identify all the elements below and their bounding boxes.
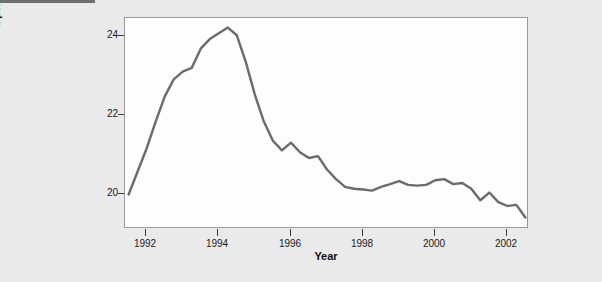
y-axis-label-line-2: a percentage of their total assets <box>0 0 2 44</box>
data-line-svg <box>125 18 529 229</box>
y-tick-label-22: 22 <box>96 109 118 119</box>
x-tick-label-2002: 2002 <box>486 238 526 249</box>
top-rule-decoration <box>0 0 95 3</box>
y-tick-label-20: 20 <box>96 188 118 198</box>
x-tick-mark-2002 <box>506 229 507 236</box>
y-axis-label: Bank investment in securities as a perce… <box>0 0 2 44</box>
page-background: Bank investment in securities as a perce… <box>0 0 602 282</box>
series-line-bank-securities <box>129 28 526 218</box>
x-tick-label-1998: 1998 <box>342 238 382 249</box>
x-axis-label: Year <box>124 250 528 262</box>
x-tick-mark-1996 <box>290 229 291 236</box>
x-tick-mark-1994 <box>217 229 218 236</box>
chart-figure: Bank investment in securities as a perce… <box>0 4 602 282</box>
x-tick-mark-1998 <box>362 229 363 236</box>
x-tick-label-2000: 2000 <box>414 238 454 249</box>
plot-area <box>124 17 528 228</box>
x-tick-label-1994: 1994 <box>197 238 237 249</box>
x-tick-label-1992: 1992 <box>125 238 165 249</box>
x-tick-label-1996: 1996 <box>270 238 310 249</box>
x-tick-mark-2000 <box>434 229 435 236</box>
x-tick-mark-1992 <box>145 229 146 236</box>
y-tick-label-24: 24 <box>96 30 118 40</box>
